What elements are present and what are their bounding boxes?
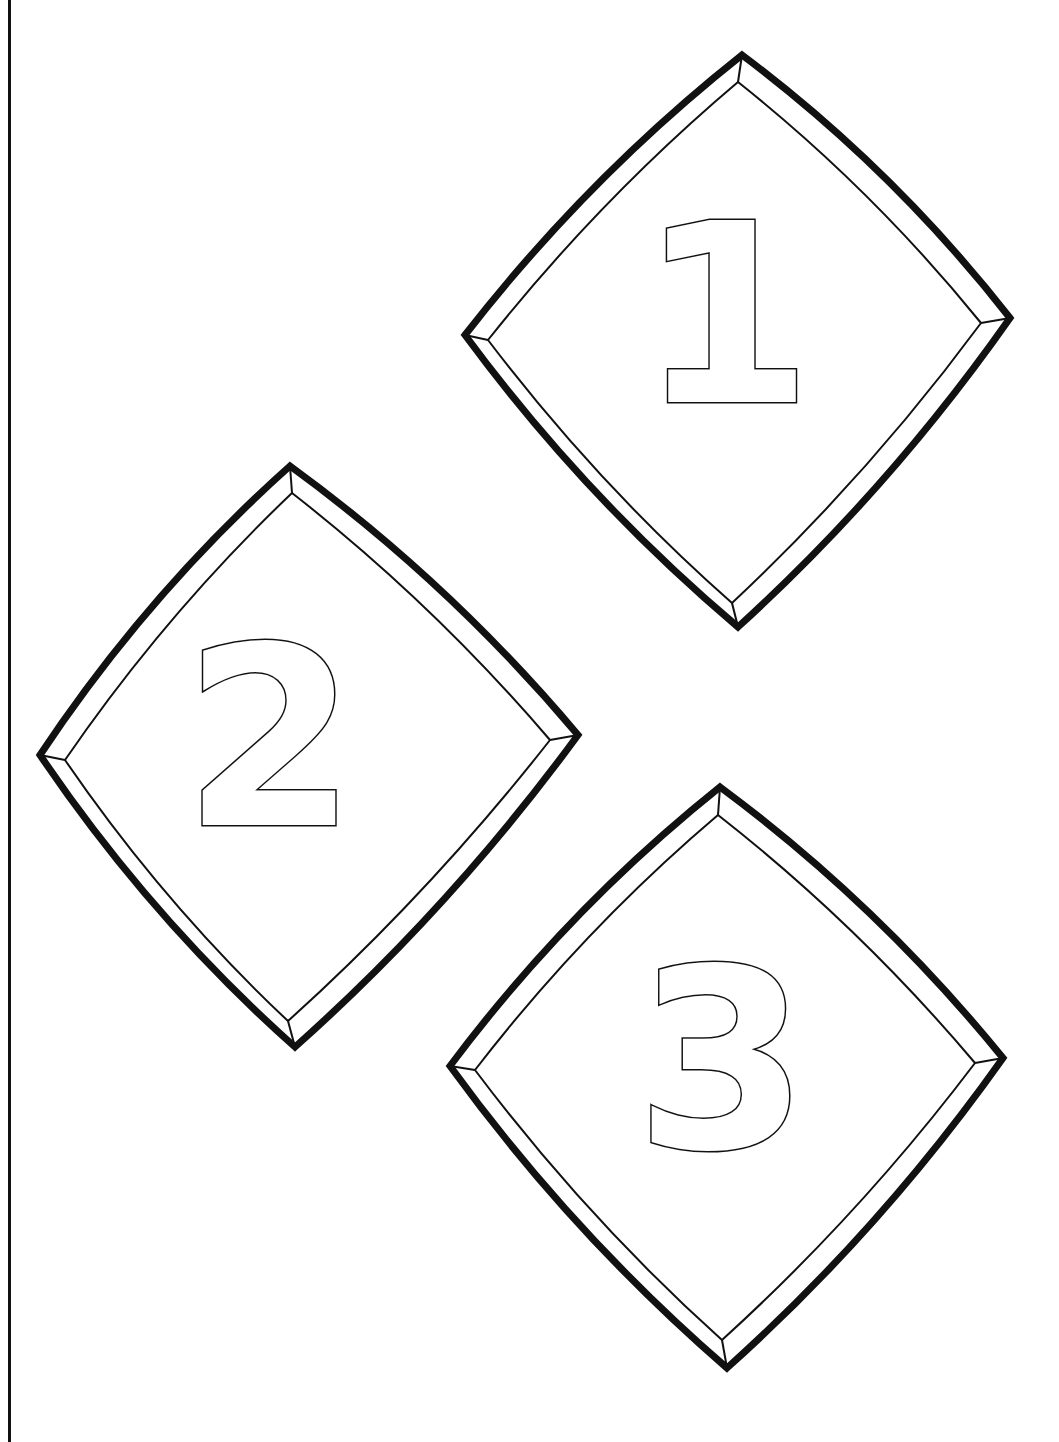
tile-number-digit: 2 (183, 593, 357, 884)
tile-number-digit: 3 (635, 915, 809, 1206)
number-tile-3: 3 (450, 787, 1003, 1368)
number-tile-1: 1 (465, 55, 1010, 627)
number-tile-2: 2 (40, 466, 578, 1047)
tile-number-digit: 1 (639, 170, 813, 461)
coloring-page-canvas: 1 2 3 (0, 0, 1059, 1442)
